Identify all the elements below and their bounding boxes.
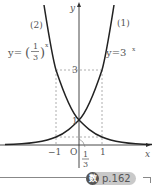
curve-3-pow-x [5,5,114,145]
tick-y-one-third: 1 3 [79,139,89,169]
curve-one-third-pow-x [44,5,152,145]
exponential-graph: (2) (1) y=3 x y= ( 1 3 ) x y x 3 1 −1 O … [0,0,158,170]
svg-text:y=3: y=3 [105,47,126,58]
curve1-tag: (1) [117,18,130,28]
x-axis-label: x [145,149,150,159]
page-reference-badge: 数 p.162 [86,171,136,185]
tick-x-neg1: −1 [48,147,61,157]
svg-text:1: 1 [33,42,38,51]
origin-label: O [70,147,77,157]
divider-rule-tick [150,177,151,183]
y-axis-arrow-icon [77,2,81,7]
page-reference-text: p.162 [102,173,131,184]
curve2-tag: (2) [30,20,43,30]
svg-text:1: 1 [83,150,88,159]
curve2-equation: y= ( 1 3 ) x [7,41,49,62]
tick-y-3: 3 [72,65,78,75]
divider-rule [0,177,87,178]
svg-text:3: 3 [83,160,88,169]
svg-text:3: 3 [33,53,38,62]
y-axis-label: y [69,3,76,13]
svg-text:(: ( [25,45,30,60]
svg-text:y=: y= [7,47,22,58]
textbook-icon: 数 [86,172,99,185]
svg-text:x: x [45,41,49,48]
tick-y-1: 1 [72,116,78,126]
svg-text:x: x [132,45,136,52]
tick-x-pos1: 1 [100,147,106,157]
curve1-equation: y=3 x [105,45,136,58]
